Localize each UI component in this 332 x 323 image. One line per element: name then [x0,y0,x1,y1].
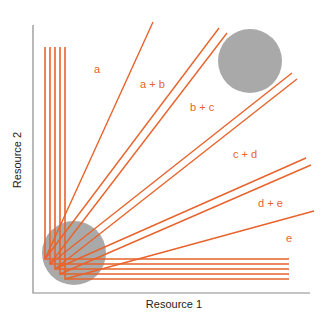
region-label: d + e [258,197,283,209]
consumption-vector-c [55,158,306,269]
region-label: a [94,63,101,75]
resource-diagram: aa + bb + cc + dd + ee Resource 1 Resour… [0,0,332,323]
high-supply-circle [218,29,282,93]
consumption-vector-d [60,165,311,274]
consumption-vector-b [50,33,227,264]
region-label: e [286,232,292,244]
region-label: b + c [190,101,215,113]
y-axis-label: Resource 2 [11,132,23,188]
region-label: a + b [140,78,165,90]
x-axis-label: Resource 1 [146,298,202,310]
consumption-vector-a [45,28,219,259]
region-label: c + d [233,148,257,160]
consumption-vector-a [45,22,153,259]
consumption-vector-c [55,79,297,269]
low-supply-circle [42,221,106,285]
